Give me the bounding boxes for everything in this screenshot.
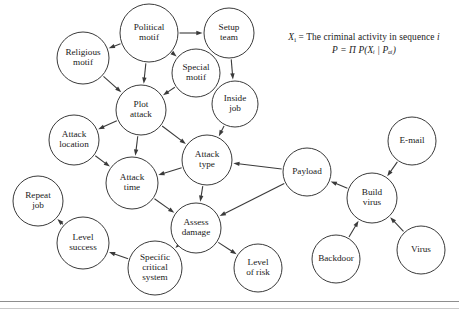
arrow-head-icon	[109, 44, 116, 48]
edge-religious-motif-to-plot-attack	[103, 76, 121, 92]
legend-line-definition: Xi = The criminal activity in sequence i	[272, 31, 456, 44]
arrow-head-icon	[168, 207, 174, 212]
arrow-head-icon	[331, 181, 338, 185]
node-attack-type[interactable]: Attacktype	[182, 135, 232, 185]
arrow-head-icon	[109, 252, 116, 256]
node-label-virus: Virus	[411, 244, 431, 254]
arrow-head-icon	[230, 73, 234, 79]
bottom-divider-secondary	[0, 308, 459, 309]
legend-formula: Xi = The criminal activity in sequence i…	[272, 31, 456, 56]
arrow-head-icon	[219, 130, 224, 137]
node-label-attack-location: Attacklocation	[59, 129, 89, 149]
node-backdoor[interactable]: Backdoor	[312, 235, 360, 283]
edge-build-virus-to-payload	[331, 181, 348, 188]
node-e-mail[interactable]: E-mail	[388, 117, 436, 165]
edge-plot-attack-to-attack-location	[98, 121, 117, 129]
edge-political-motif-to-setup-team	[180, 31, 203, 35]
arrow-head-icon	[98, 125, 105, 130]
edge-virus-to-build-virus	[390, 217, 403, 231]
edges-layer	[57, 31, 403, 259]
node-plot-attack[interactable]: Plotattack	[116, 85, 166, 135]
node-virus[interactable]: Virus	[397, 226, 445, 274]
edge-attack-type-to-attack-time	[158, 168, 181, 175]
edge-attack-type-to-assess-damage	[199, 186, 203, 202]
node-assess-damage[interactable]: Assessdamage	[171, 203, 221, 253]
bottom-divider	[0, 301, 459, 302]
edge-attack-location-to-attack-time	[95, 156, 110, 167]
arrow-head-icon	[163, 90, 169, 95]
arrow-head-icon	[230, 249, 236, 254]
node-specific-critical-system[interactable]: Specificcriticalsystem	[128, 241, 182, 295]
legend-probability-expression: P = Π P(Xᵢ | Pₐᵢ)	[332, 45, 396, 55]
arrow-head-icon	[196, 31, 202, 35]
figure-page: PoliticalmotifSetupteamReligiousmotifSpe…	[0, 0, 459, 315]
edge-payload-to-assess-damage	[220, 183, 285, 216]
edge-assess-damage-to-level-of-risk	[218, 242, 236, 254]
edge-level-success-to-repeat-job	[57, 219, 63, 225]
node-repeat-job[interactable]: Repeatjob	[13, 176, 63, 226]
node-label-build-virus: Buildvirus	[362, 187, 383, 207]
node-inside-job[interactable]: Insidejob	[212, 81, 258, 127]
legend-line-probability: P = Π P(Xᵢ | Pₐᵢ)	[272, 44, 456, 57]
edge-backdoor-to-build-virus	[349, 221, 359, 237]
edge-specific-critical-system-to-level-success	[109, 252, 128, 259]
node-religious-motif[interactable]: Religiousmotif	[57, 32, 109, 84]
node-attack-time[interactable]: Attacktime	[106, 157, 158, 209]
edge-special-motif-to-plot-attack	[163, 87, 175, 95]
node-label-level-success: Levelsuccess	[69, 232, 97, 252]
arrow-head-icon	[199, 195, 203, 201]
arrow-head-icon	[387, 170, 392, 176]
node-label-setup-team: Setupteam	[219, 22, 240, 42]
arrow-head-icon	[220, 211, 227, 216]
node-label-assess-damage: Assessdamage	[182, 217, 211, 237]
node-label-e-mail: E-mail	[399, 135, 424, 145]
node-level-success[interactable]: Levelsuccess	[57, 217, 109, 269]
edge-political-motif-to-plot-attack	[142, 63, 146, 83]
node-special-motif[interactable]: Specialmotif	[172, 49, 220, 97]
edge-political-motif-to-religious-motif	[109, 44, 121, 48]
node-build-virus[interactable]: Buildvirus	[347, 173, 397, 223]
arrow-head-icon	[142, 77, 146, 83]
arrow-head-icon	[233, 162, 239, 166]
arrow-head-icon	[134, 149, 138, 155]
node-attack-location[interactable]: Attacklocation	[49, 115, 99, 165]
node-label-specific-critical-system: Specificcriticalsystem	[140, 252, 170, 282]
node-payload[interactable]: Payload	[283, 148, 331, 196]
node-label-level-of-risk: Levelof risk	[246, 257, 270, 277]
edge-payload-to-attack-type	[233, 162, 281, 169]
edge-plot-attack-to-attack-type	[162, 126, 186, 144]
node-level-of-risk[interactable]: Levelof risk	[234, 244, 282, 292]
edge-setup-team-to-inside-job	[230, 59, 234, 79]
node-label-special-motif: Specialmotif	[182, 62, 209, 82]
node-setup-team[interactable]: Setupteam	[204, 8, 254, 58]
node-political-motif[interactable]: Politicalmotif	[120, 4, 178, 62]
arrow-head-icon	[353, 221, 358, 227]
node-label-backdoor: Backdoor	[318, 253, 354, 263]
edge-inside-job-to-attack-type	[219, 126, 224, 136]
arrow-head-icon	[158, 171, 165, 175]
edge-e-mail-to-build-virus	[387, 162, 397, 176]
edge-plot-attack-to-attack-time	[134, 136, 138, 155]
legend-definition-index: i	[437, 32, 440, 42]
node-label-payload: Payload	[292, 166, 322, 176]
legend-definition-text: = The criminal activity in sequence	[296, 32, 437, 42]
edge-attack-time-to-assess-damage	[154, 199, 174, 213]
